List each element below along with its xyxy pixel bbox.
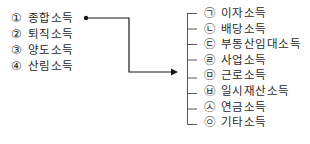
circled-hangul-giyeok: ㉠ [204, 6, 216, 22]
circled-hangul-ieung: ㉧ [204, 115, 216, 131]
right-item-dividend-income: ㉡배당소득 [204, 22, 301, 38]
right-item-label: 부동산임대소득 [221, 37, 302, 51]
right-list: ㉠이자소득 ㉡배당소득 ㉢부동산임대소득 ㉣사업소득 ㉤근로소득 ㉥일시재산소득… [204, 6, 301, 131]
right-item-label: 연금소득 [221, 100, 267, 114]
bracket-ticks [188, 14, 198, 125]
right-item-temporary-property-income: ㉥일시재산소득 [204, 84, 301, 100]
right-item-real-estate-rental-income: ㉢부동산임대소득 [204, 37, 301, 53]
right-item-label: 근로소득 [221, 68, 267, 82]
right-item-label: 이자소득 [221, 6, 267, 20]
right-item-pension-income: ㉦연금소득 [204, 100, 301, 116]
circled-hangul-mieum: ㉤ [204, 68, 216, 84]
right-item-label: 사업소득 [221, 53, 267, 67]
right-item-earned-income: ㉤근로소득 [204, 68, 301, 84]
right-item-label: 기타소득 [221, 115, 267, 129]
circled-hangul-digeut: ㉢ [204, 37, 216, 53]
right-item-business-income: ㉣사업소득 [204, 53, 301, 69]
connector-line [86, 18, 172, 72]
arrow-head-icon [171, 69, 178, 76]
circled-hangul-bieup: ㉥ [204, 84, 216, 100]
circled-hangul-nieun: ㉡ [204, 22, 216, 38]
circled-hangul-siot: ㉦ [204, 100, 216, 116]
right-item-other-income: ㉧기타소득 [204, 115, 301, 131]
circled-hangul-rieul: ㉣ [204, 53, 216, 69]
right-item-label: 일시재산소득 [221, 84, 290, 98]
right-item-interest-income: ㉠이자소득 [204, 6, 301, 22]
right-item-label: 배당소득 [221, 22, 267, 36]
